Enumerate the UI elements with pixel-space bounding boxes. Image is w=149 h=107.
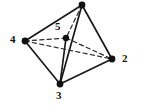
solid-edge-v5-v3 — [60, 38, 66, 84]
dashed-edge-v4-v5 — [25, 38, 66, 41]
dashed-edge-v5-v2 — [66, 38, 112, 59]
vertex-label-5: 5 — [55, 21, 61, 32]
solid-edge-v1-v2 — [82, 5, 112, 59]
vertex-label-3: 3 — [56, 90, 62, 101]
tetrahedron-figure: 4 2 3 5 — [0, 0, 149, 107]
vertex-label-4: 4 — [10, 34, 16, 45]
vertex-dot-v5 — [63, 35, 69, 41]
vertex-dot-v1 — [79, 2, 86, 9]
vertex-dot-v2 — [109, 56, 116, 63]
solid-edge-group — [25, 5, 112, 84]
vertex-dot-v3 — [57, 81, 64, 88]
vertex-label-2: 2 — [122, 53, 128, 64]
vertex-dot-v4 — [22, 38, 29, 45]
solid-edge-v3-v2 — [60, 59, 112, 84]
